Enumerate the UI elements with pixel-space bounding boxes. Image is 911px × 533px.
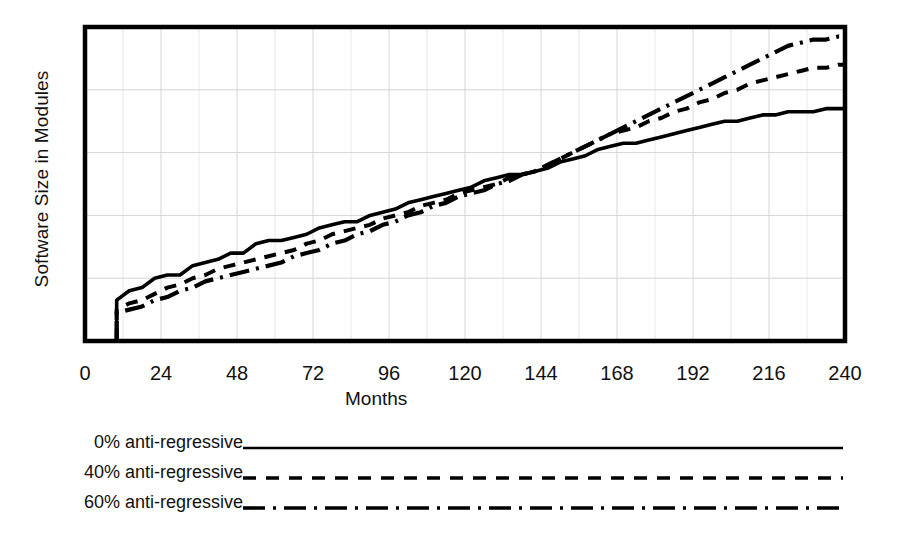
chart-legend: 0% anti-regressive 40% anti-regressive 6… (0, 430, 911, 520)
x-tick-label-168: 168 (600, 362, 633, 385)
x-tick-label-72: 72 (302, 362, 324, 385)
x-tick-label-144: 144 (524, 362, 557, 385)
x-tick-label-120: 120 (448, 362, 481, 385)
legend-swatch-dashdot (243, 503, 843, 513)
x-tick-label-240: 240 (828, 362, 861, 385)
x-tick-label-24: 24 (150, 362, 172, 385)
series-line-0 (117, 109, 845, 341)
series-line-2 (117, 36, 845, 341)
series-line-1 (117, 65, 845, 341)
x-tick-label-216: 216 (752, 362, 785, 385)
x-tick-label-48: 48 (226, 362, 248, 385)
legend-label-0: 0% anti-regressive (94, 432, 243, 453)
legend-label-1: 40% anti-regressive (84, 462, 243, 483)
legend-swatch-solid (243, 443, 843, 453)
legend-item-0: 0% anti-regressive (0, 430, 911, 460)
legend-label-2: 60% anti-regressive (84, 492, 243, 513)
x-axis-label: Months (345, 388, 407, 410)
legend-item-2: 60% anti-regressive (0, 490, 911, 520)
x-tick-label-96: 96 (378, 362, 400, 385)
x-tick-label-0: 0 (79, 362, 90, 385)
chart-figure: Software Size in Modules 024487296120144… (0, 0, 911, 533)
x-tick-label-192: 192 (676, 362, 709, 385)
legend-item-1: 40% anti-regressive (0, 460, 911, 490)
plot-area (0, 0, 911, 400)
legend-swatch-dashed (243, 473, 843, 483)
